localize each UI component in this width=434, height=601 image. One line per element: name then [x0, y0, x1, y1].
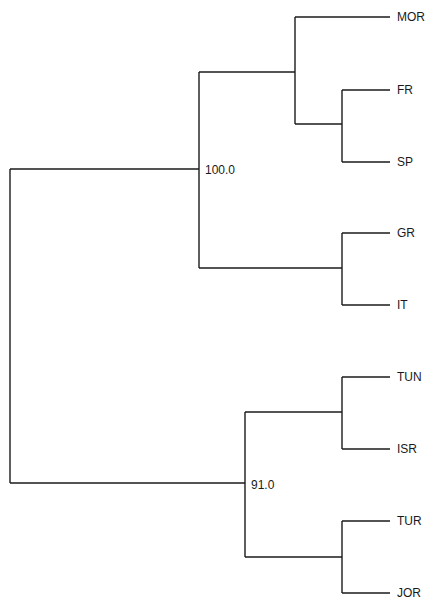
dendrogram: 100.0 MOR FR SP GR IT 91.0 TUN ISR — [0, 0, 434, 601]
gr-it-node: GR IT — [342, 226, 415, 312]
lower-cluster-support-label: 91.0 — [251, 478, 275, 492]
leaf-label-gr: GR — [397, 226, 415, 240]
tun-isr-node: TUN ISR — [342, 370, 422, 456]
leaf-label-mor: MOR — [397, 10, 425, 24]
leaf-label-fr: FR — [397, 83, 413, 97]
tur-jor-node: TUR JOR — [342, 514, 422, 600]
leaf-label-jor: JOR — [397, 586, 421, 600]
leaf-label-sp: SP — [397, 155, 413, 169]
mor-fr-sp-node: MOR — [295, 10, 425, 124]
upper-cluster-node: 100.0 — [199, 72, 342, 268]
fr-sp-node: FR SP — [342, 83, 413, 169]
lower-cluster-node: 91.0 — [245, 412, 342, 557]
root-node — [10, 169, 245, 483]
upper-cluster-support-label: 100.0 — [205, 163, 235, 177]
leaf-label-it: IT — [397, 298, 408, 312]
leaf-label-tun: TUN — [397, 370, 422, 384]
leaf-label-tur: TUR — [397, 514, 422, 528]
leaf-label-isr: ISR — [397, 442, 417, 456]
